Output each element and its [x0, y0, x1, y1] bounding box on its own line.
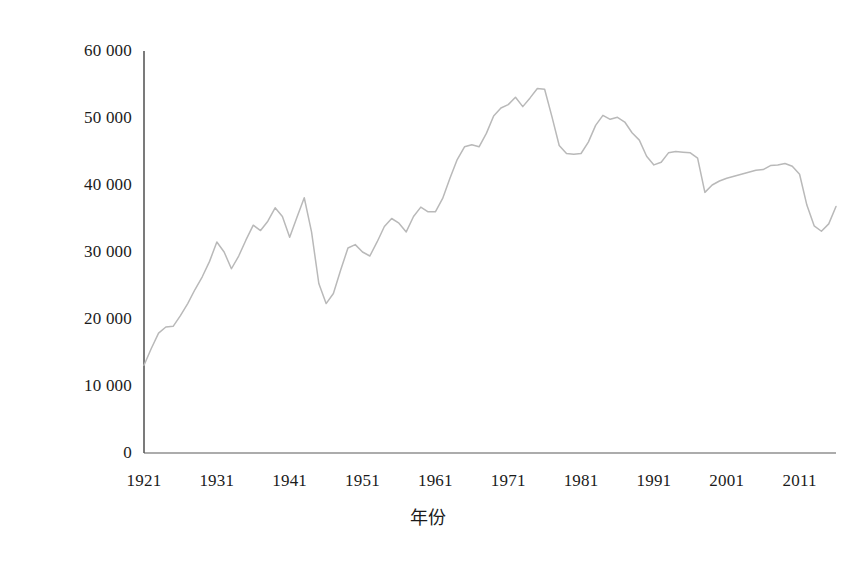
x-tick-label: 1991: [614, 472, 694, 489]
data-series-group: [144, 89, 836, 366]
y-tick-label: 20 000: [84, 310, 132, 327]
line-chart: 010 00020 00030 00040 00050 00060 000 19…: [0, 0, 856, 565]
x-tick-label: 1941: [250, 472, 330, 489]
axes-group: [144, 51, 836, 453]
y-tick-label: 10 000: [84, 377, 132, 394]
y-tick-label: 50 000: [84, 109, 132, 126]
x-tick-label: 1951: [323, 472, 403, 489]
x-tick-label: 1931: [177, 472, 257, 489]
y-tick-label: 30 000: [84, 243, 132, 260]
y-tick-label: 0: [123, 444, 132, 461]
x-tick-label: 1971: [468, 472, 548, 489]
y-tick-label: 40 000: [84, 176, 132, 193]
x-tick-label: 1961: [395, 472, 475, 489]
y-tick-label: 60 000: [84, 42, 132, 59]
x-axis-title: 年份: [0, 508, 856, 528]
x-tick-label: 1981: [541, 472, 621, 489]
x-tick-label: 2011: [760, 472, 840, 489]
series-line-deaths: [144, 89, 836, 366]
x-tick-label: 2001: [687, 472, 767, 489]
x-tick-label: 1921: [104, 472, 184, 489]
